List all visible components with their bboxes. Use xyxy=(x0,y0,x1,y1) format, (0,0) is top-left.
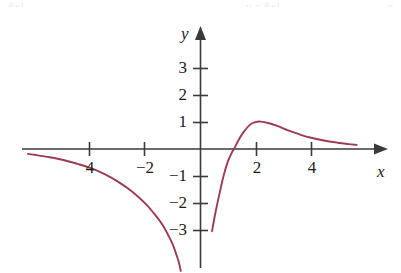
y-axis-arrowhead xyxy=(195,26,206,40)
rational-function-figure: f(x) y = f(x) x 4 −2 2 4 xyxy=(0,0,401,273)
y-tick-label-neg3: −3 xyxy=(147,220,187,240)
x-tick-label-pos2: 2 xyxy=(241,158,273,178)
y-axis-label: y xyxy=(181,24,189,44)
x-tick-label-pos4: 4 xyxy=(296,158,328,178)
x-axis-arrowhead xyxy=(374,144,388,155)
x-axis-label: x xyxy=(377,162,385,182)
y-tick-label-3: 3 xyxy=(152,58,187,78)
y-tick-label-2: 2 xyxy=(152,85,187,105)
axes-group xyxy=(22,26,388,268)
y-tick-label-1: 1 xyxy=(152,112,187,132)
y-tick-label-neg1: −1 xyxy=(147,166,187,186)
x-tick-label-neg4: 4 xyxy=(74,158,106,178)
curve-right-branch xyxy=(212,122,357,232)
y-tick-label-neg2: −2 xyxy=(147,193,187,213)
plot-canvas xyxy=(0,0,401,273)
curve-group xyxy=(28,122,357,271)
